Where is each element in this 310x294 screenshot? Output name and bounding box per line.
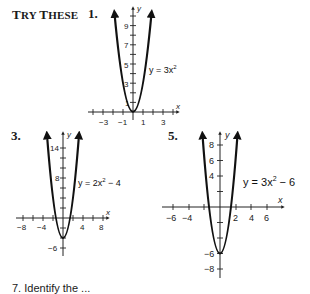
graph-1: −3 −1 1 3 1 3 5 7 9 y x y = 3x2 xyxy=(88,4,181,127)
y-tick-label: 7 xyxy=(124,41,129,50)
x-tick-label: −4 xyxy=(37,223,47,232)
x-tick-label: 3 xyxy=(161,118,166,127)
y-tick-label: 6 xyxy=(209,156,214,166)
x-tick-label: −3 xyxy=(99,118,109,127)
x-tick-label: −8 xyxy=(17,223,27,232)
graph-3: −8 −4 4 8 14 8 −6 y x y = 2x2 − 4 xyxy=(16,130,121,256)
y-tick-label: 4 xyxy=(209,171,214,181)
graph-5: −6 −4 2 4 6 8 6 4 −6 −8 y x y = 3x2 − 6 xyxy=(162,130,295,278)
x-tick-label: 1 xyxy=(141,118,146,127)
y-tick-label: −6 xyxy=(204,249,214,259)
x-axis-label: x xyxy=(175,102,181,111)
x-tick-label: 2 xyxy=(233,213,238,223)
y-tick-label: 8 xyxy=(209,140,214,150)
y-tick-label: −6 xyxy=(48,244,58,253)
next-exercise-text: 7. Identify the ... xyxy=(12,282,90,294)
y-axis-label: y xyxy=(66,130,72,139)
equation-label: y = 3x2 − 6 xyxy=(243,175,295,188)
equation-label: y = 2x2 − 4 xyxy=(78,177,121,188)
x-tick-label: −4 xyxy=(182,213,192,223)
y-tick-label: 5 xyxy=(124,61,129,70)
x-tick-label: 8 xyxy=(99,223,104,232)
y-tick-label: 9 xyxy=(124,22,129,31)
x-axis-label: x xyxy=(277,195,283,205)
y-tick-label: 8 xyxy=(55,174,60,183)
y-axis-label: y xyxy=(224,130,230,140)
y-axis-label: y xyxy=(136,4,142,13)
equation-label: y = 3x2 xyxy=(149,64,177,75)
x-tick-label: −6 xyxy=(166,213,176,223)
x-tick-label: −1 xyxy=(118,118,128,127)
x-axis-label: x xyxy=(105,208,111,217)
y-tick-label: −8 xyxy=(204,264,214,274)
y-tick-label: 14 xyxy=(50,144,59,153)
x-tick-label: 4 xyxy=(249,213,254,223)
x-tick-label: 4 xyxy=(80,223,85,232)
x-tick-label: 6 xyxy=(264,213,269,223)
